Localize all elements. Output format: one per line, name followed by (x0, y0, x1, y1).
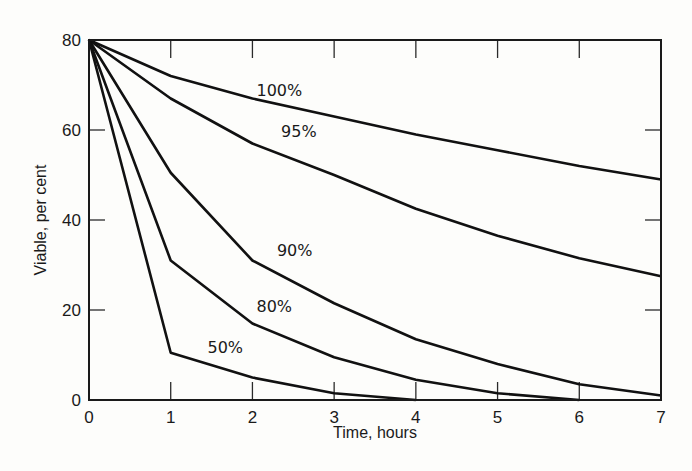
plot-frame (89, 40, 661, 400)
y-axis-title: Viable, per cent (32, 164, 49, 275)
x-axis-title: Time, hours (333, 424, 417, 441)
y-tick-label: 80 (62, 31, 81, 50)
x-tick-label: 5 (493, 408, 502, 427)
y-tick-label: 20 (62, 301, 81, 320)
x-tick-label: 6 (575, 408, 584, 427)
y-tick-label: 60 (62, 121, 81, 140)
axis-ticks (89, 40, 661, 400)
y-tick-label: 40 (62, 211, 81, 230)
tick-labels: 01234567020406080 (62, 31, 666, 427)
x-tick-label: 0 (84, 408, 93, 427)
curve-50-percent (89, 40, 416, 400)
series-label-95-percent: 95% (281, 122, 317, 141)
curve-95-percent (89, 40, 661, 276)
y-tick-label: 0 (72, 391, 81, 410)
series-label-90-percent: 90% (277, 241, 313, 260)
curve-100-percent (89, 40, 661, 180)
curve-90-percent (89, 40, 661, 396)
series-label-50-percent: 50% (207, 338, 243, 357)
curves (89, 40, 661, 400)
x-tick-label: 1 (166, 408, 175, 427)
x-tick-label: 2 (248, 408, 257, 427)
series-labels: 100%95%90%80%50% (207, 81, 316, 357)
series-label-100-percent: 100% (257, 81, 303, 100)
series-label-80-percent: 80% (257, 297, 293, 316)
x-tick-label: 7 (656, 408, 665, 427)
survival-line-chart: 01234567020406080 100%95%90%80%50% Time,… (0, 0, 692, 471)
